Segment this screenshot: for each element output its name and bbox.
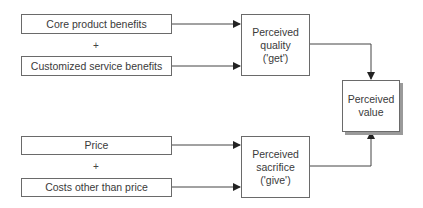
core-product-benefits-label: Core product benefits [46,18,146,31]
perceived-sacrifice-label: Perceived sacrifice ('give') [252,148,299,187]
perceived-sacrifice-box: Perceived sacrifice ('give') [241,136,310,198]
plus-operator-give: + [86,161,106,172]
perceived-value-box: Perceived value [342,80,400,132]
plus-operator-get: + [86,40,106,51]
core-product-benefits-box: Core product benefits [21,14,172,34]
perceived-quality-label: Perceived quality ('get') [252,26,299,65]
costs-other-than-price-box: Costs other than price [21,178,172,197]
costs-other-than-price-label: Costs other than price [45,181,148,194]
customized-service-benefits-box: Customized service benefits [21,56,172,76]
perceived-quality-box: Perceived quality ('get') [241,14,310,76]
price-box: Price [21,136,172,155]
price-label: Price [85,139,109,152]
perceived-value-label: Perceived value [348,93,395,119]
customized-service-benefits-label: Customized service benefits [31,60,162,73]
